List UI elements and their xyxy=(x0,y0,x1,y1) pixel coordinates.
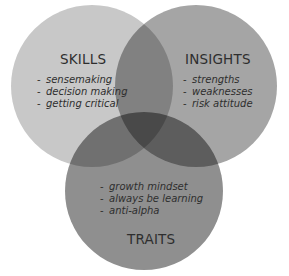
bullet-dash: - xyxy=(37,74,46,86)
insights-list: -strengths -weaknesses -risk attitude xyxy=(183,74,253,110)
skills-list-item: -decision making xyxy=(37,86,128,98)
insights-list-item: -risk attitude xyxy=(183,98,253,110)
skills-list-item: -sensemaking xyxy=(37,74,128,86)
skills-list-item: -getting critical xyxy=(37,98,128,110)
insights-list-item: -weaknesses xyxy=(183,86,253,98)
traits-list-item: -always be learning xyxy=(100,193,203,205)
bullet-dash: - xyxy=(37,86,46,98)
traits-list-item: -growth mindset xyxy=(100,181,203,193)
bullet-dash: - xyxy=(100,193,109,205)
bullet-dash: - xyxy=(37,98,46,110)
bullet-dash: - xyxy=(100,181,109,193)
insights-title: INSIGHTS xyxy=(185,51,251,67)
bullet-dash: - xyxy=(183,86,192,98)
traits-list-item: -anti-alpha xyxy=(100,205,203,217)
traits-title: TRAITS xyxy=(127,231,175,247)
traits-list: -growth mindset -always be learning -ant… xyxy=(100,181,203,217)
skills-title: SKILLS xyxy=(60,51,106,67)
insights-list-item: -strengths xyxy=(183,74,253,86)
bullet-dash: - xyxy=(100,205,109,217)
skills-list: -sensemaking -decision making -getting c… xyxy=(37,74,128,110)
bullet-dash: - xyxy=(183,98,192,110)
bullet-dash: - xyxy=(183,74,192,86)
